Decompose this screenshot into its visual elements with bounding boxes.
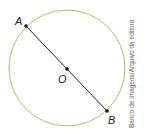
diagram: A O B xyxy=(0,0,144,136)
image-credit: Banco de imagens/Arquivo da editora xyxy=(128,8,137,128)
label-o: O xyxy=(58,73,67,85)
point-o xyxy=(65,67,69,71)
point-a xyxy=(24,24,28,28)
point-b xyxy=(105,109,109,113)
label-a: A xyxy=(14,15,22,27)
label-b: B xyxy=(108,114,115,126)
